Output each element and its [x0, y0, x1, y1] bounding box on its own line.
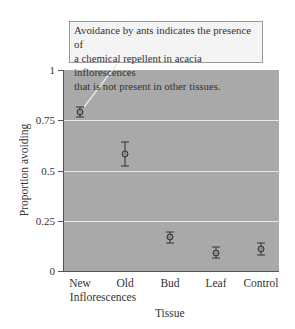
callout-line: a chemical repellent in acacia infloresc… — [74, 51, 258, 79]
callout-line: that is not present in other tissues. — [74, 79, 258, 93]
xtick-label: Old — [116, 277, 133, 289]
x-axis-title: Tissue — [155, 307, 185, 319]
xtick-group-inflorescences: Inflorescences — [58, 290, 148, 304]
callout-line: Avoidance by ants indicates the presence… — [74, 23, 258, 51]
xtick-label: New — [69, 277, 91, 289]
annotation-callout: Avoidance by ants indicates the presence… — [69, 21, 263, 63]
xtick-label-control: Control — [226, 276, 295, 290]
